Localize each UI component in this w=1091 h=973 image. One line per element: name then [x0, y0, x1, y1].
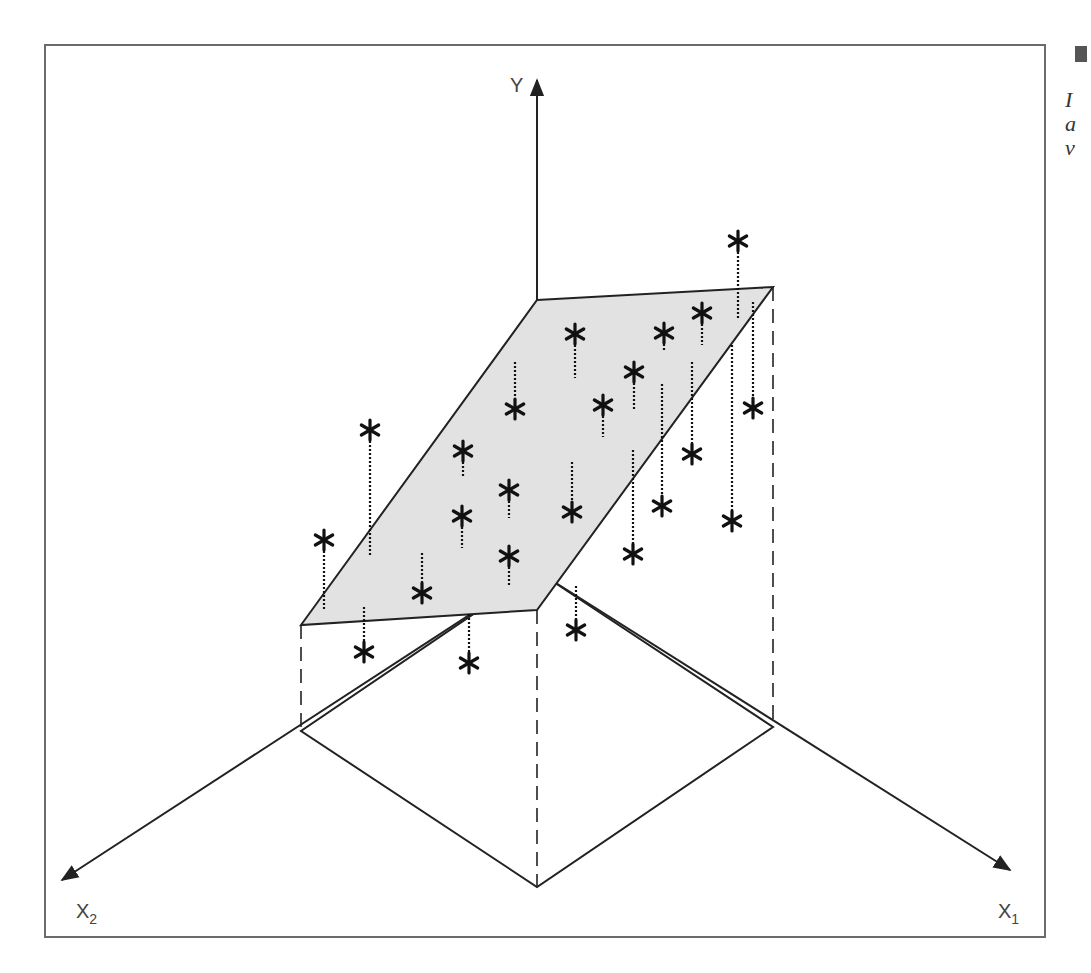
asterisk-marker-icon [653, 496, 670, 516]
asterisk-marker-icon [460, 653, 477, 673]
asterisk-marker-icon [361, 420, 378, 440]
caption-fragment: I a v [1065, 88, 1091, 160]
data-point [567, 586, 584, 640]
asterisk-marker-icon [567, 620, 584, 640]
x1-axis-label: X1 [998, 900, 1019, 927]
x1-axis [537, 571, 1010, 870]
caption-marker [1075, 46, 1087, 62]
y-axis-label: Y [510, 74, 523, 96]
asterisk-marker-icon [624, 544, 641, 564]
asterisk-marker-icon [355, 642, 372, 662]
asterisk-marker-icon [744, 398, 761, 418]
x2-axis-label: X2 [76, 900, 97, 927]
data-point [460, 614, 477, 673]
asterisk-marker-icon [723, 511, 740, 531]
asterisk-marker-icon [315, 530, 332, 550]
caption-line-3: v [1065, 136, 1091, 160]
asterisk-marker-icon [729, 231, 746, 251]
data-point [723, 345, 740, 531]
caption-line-2: a [1065, 112, 1091, 136]
asterisk-marker-icon [683, 444, 700, 464]
x2-axis [62, 571, 537, 880]
caption-line-1: I [1065, 88, 1091, 112]
